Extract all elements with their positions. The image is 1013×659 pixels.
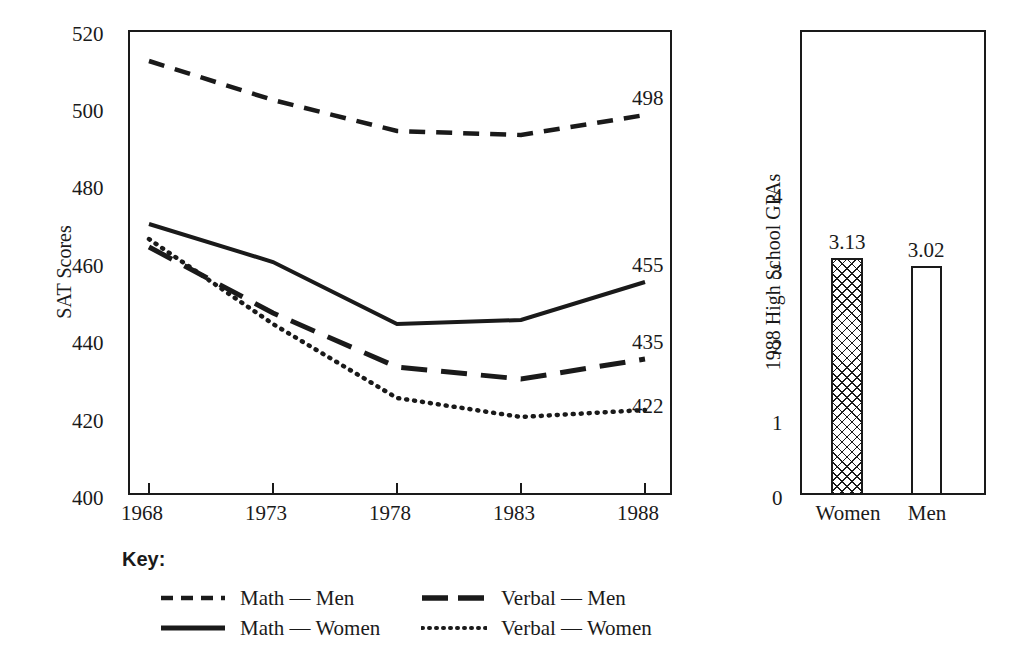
bar-category-women: Women xyxy=(803,503,893,524)
endpoint-label-math-men: 498 xyxy=(632,88,664,109)
y-tick-label-500: 500 xyxy=(72,101,104,122)
x-tick-1968 xyxy=(148,483,150,495)
chart-legend: Key: Math — Men Verbal — Men xyxy=(122,548,682,643)
legend-rows: Math — Men Verbal — Men Math — Women xyxy=(160,583,682,643)
y-tick-label-420: 420 xyxy=(72,411,104,432)
endpoint-label-verbal-men: 435 xyxy=(632,332,664,353)
series-line-math-men xyxy=(149,61,645,135)
legend-row: Math — Men Verbal — Men xyxy=(160,583,682,613)
x-tick-label-1973: 1973 xyxy=(245,503,287,524)
bar-value-women: 3.13 xyxy=(813,232,881,253)
legend-label-math-men: Math — Men xyxy=(240,586,354,611)
legend-label-math-women: Math — Women xyxy=(240,616,380,641)
x-tick-label-1988: 1988 xyxy=(617,503,659,524)
y-tick-label-520: 520 xyxy=(72,24,104,45)
y-tick-label-480: 480 xyxy=(72,178,104,199)
y-tick-label-440: 440 xyxy=(72,333,104,354)
endpoint-label-verbal-women: 422 xyxy=(632,396,664,417)
series-line-verbal-women xyxy=(149,239,645,417)
legend-row: Math — Women Verbal — Women xyxy=(160,613,682,643)
bar-y-tick-label-4: 4 xyxy=(772,186,783,207)
x-tick-label-1983: 1983 xyxy=(493,503,535,524)
legend-title: Key: xyxy=(122,548,682,571)
bar-y-tick-label-3: 3 xyxy=(772,262,783,283)
x-tick-1978 xyxy=(396,483,398,495)
legend-swatch-dashed-icon xyxy=(160,591,226,605)
y-tick-label-400: 400 xyxy=(72,488,104,509)
bar-y-tick-label-1: 1 xyxy=(772,413,783,434)
legend-swatch-dotted-icon xyxy=(421,621,487,635)
legend-entry-math-women: Math — Women xyxy=(160,616,421,641)
bar-y-tick-label-2: 2 xyxy=(772,337,783,358)
legend-swatch-solid-icon xyxy=(160,621,226,635)
legend-label-verbal-women: Verbal — Women xyxy=(501,616,652,641)
legend-swatch-long-dashed-icon xyxy=(421,591,487,605)
bar-category-men: Men xyxy=(890,503,964,524)
x-tick-label-1968: 1968 xyxy=(121,503,163,524)
legend-entry-verbal-men: Verbal — Men xyxy=(421,586,682,611)
bar-men[interactable] xyxy=(911,266,942,495)
legend-entry-verbal-women: Verbal — Women xyxy=(421,616,682,641)
sat-scores-line-chart: SAT Scores 520 500 480 460 440 420 400 4… xyxy=(0,0,700,659)
gpa-bar-chart: 1988 High School GPAs 4 3 2 1 0 3.13 3.0… xyxy=(700,0,1013,659)
legend-label-verbal-men: Verbal — Men xyxy=(501,586,626,611)
bar-value-men: 3.02 xyxy=(892,240,960,261)
series-line-math-women xyxy=(149,224,645,324)
legend-entry-math-men: Math — Men xyxy=(160,586,421,611)
x-tick-label-1978: 1978 xyxy=(369,503,411,524)
endpoint-label-math-women: 455 xyxy=(632,255,664,276)
bar-women[interactable] xyxy=(831,258,863,495)
series-line-verbal-men xyxy=(149,247,645,379)
x-tick-1973 xyxy=(272,483,274,495)
line-chart-series-group xyxy=(128,30,672,495)
bar-y-tick-label-0: 0 xyxy=(772,488,783,509)
x-tick-1983 xyxy=(520,483,522,495)
x-tick-1988 xyxy=(644,483,646,495)
y-tick-label-460: 460 xyxy=(72,256,104,277)
line-chart-y-axis-title: SAT Scores xyxy=(54,202,74,342)
bar-chart-plot-frame xyxy=(800,30,986,495)
